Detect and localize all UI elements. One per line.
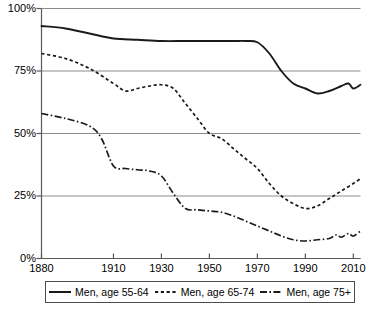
legend-line-swatch-dashed — [155, 287, 177, 297]
legend-label-0: Men, age 55-64 — [75, 286, 149, 298]
x-tick-label-1950: 1950 — [189, 263, 229, 274]
x-tick-label-1930: 1930 — [141, 263, 181, 274]
legend-line-swatch-solid — [49, 287, 71, 297]
legend-entry-2: Men, age 75+ — [260, 286, 351, 298]
legend-entry-1: Men, age 65-74 — [155, 286, 255, 298]
y-tick-label-50: 50% — [0, 128, 36, 139]
gridlines — [42, 9, 361, 259]
y-tick-label-75: 75% — [0, 65, 36, 76]
legend-line-swatch-dashdot — [260, 287, 282, 297]
y-tick-label-25: 25% — [0, 190, 36, 201]
series-line-1 — [42, 54, 361, 209]
series-line-0 — [42, 26, 361, 94]
x-tick-label-1970: 1970 — [237, 263, 277, 274]
legend-label-2: Men, age 75+ — [286, 286, 351, 298]
y-tick-label-100: 100% — [0, 3, 36, 14]
x-tick-label-1880: 1880 — [22, 263, 62, 274]
series-line-2 — [42, 114, 361, 242]
legend-entry-0: Men, age 55-64 — [49, 286, 149, 298]
chart-legend: Men, age 55-64Men, age 65-74Men, age 75+ — [45, 281, 355, 303]
labor-force-participation-chart: 100%75%50%25%0% 188019101930195019701990… — [0, 0, 372, 311]
x-tick-label-2010: 2010 — [333, 263, 372, 274]
x-tick-label-1990: 1990 — [285, 263, 325, 274]
x-tick-label-1910: 1910 — [93, 263, 133, 274]
legend-label-1: Men, age 65-74 — [181, 286, 255, 298]
